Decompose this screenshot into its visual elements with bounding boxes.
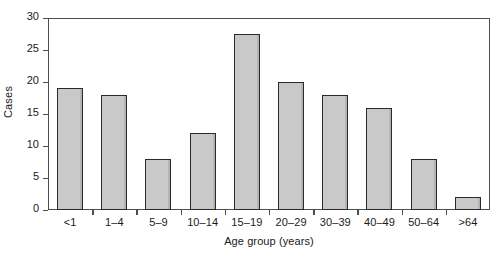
y-axis-title: Cases <box>2 72 14 132</box>
y-axis-tick-label: 20 <box>27 74 39 86</box>
x-axis-tick-label: 1–4 <box>105 216 124 228</box>
x-axis-tick-label: 50–64 <box>408 216 439 228</box>
bar <box>190 133 216 210</box>
bar-slot <box>225 18 269 210</box>
bar-slot <box>313 18 357 210</box>
bar <box>145 159 171 210</box>
bar-slot <box>136 18 180 210</box>
bar-slot <box>446 18 490 210</box>
y-axis-tick-label: 0 <box>33 202 39 214</box>
y-axis-tick-label: 25 <box>27 42 39 54</box>
y-axis-tick-label: 5 <box>33 170 39 182</box>
bar <box>278 82 304 210</box>
bar-slot <box>269 18 313 210</box>
x-axis-tick-label: <1 <box>64 216 77 228</box>
bar-series <box>48 18 490 210</box>
bar-slot <box>48 18 92 210</box>
x-axis-tick-label: 40–49 <box>364 216 395 228</box>
bar <box>411 159 437 210</box>
x-axis-tick-mark <box>181 210 182 215</box>
x-axis-tick-mark <box>92 210 93 215</box>
y-axis-tick-label: 30 <box>27 10 39 22</box>
x-axis-tick-label: >64 <box>458 216 477 228</box>
x-axis-tick-label: 20–29 <box>276 216 307 228</box>
bar <box>57 88 83 210</box>
bar <box>455 197 481 210</box>
x-axis-tick-mark <box>446 210 447 215</box>
bar <box>101 95 127 210</box>
x-axis-labels: <11–45–910–1415–1920–2930–3940–4950–64>6… <box>48 216 490 234</box>
x-axis-tick-mark <box>269 210 270 215</box>
bar-slot <box>181 18 225 210</box>
bar <box>366 108 392 210</box>
bar-chart: Cases 051015202530 <11–45–910–1415–1920–… <box>0 0 504 259</box>
x-axis-tick-label: 10–14 <box>187 216 218 228</box>
x-axis-tick-label: 30–39 <box>320 216 351 228</box>
y-axis-tick-label: 15 <box>27 106 39 118</box>
y-axis-tick-label: 10 <box>27 138 39 150</box>
x-axis-tick-mark <box>225 210 226 215</box>
bar-slot <box>402 18 446 210</box>
x-axis-tick-mark <box>402 210 403 215</box>
x-axis-tick-mark <box>136 210 137 215</box>
bar <box>234 34 260 210</box>
x-axis-title: Age group (years) <box>48 235 490 247</box>
x-axis-tick-mark <box>313 210 314 215</box>
x-axis-tick-label: 15–19 <box>231 216 262 228</box>
bar-slot <box>92 18 136 210</box>
x-axis-tick-mark <box>357 210 358 215</box>
bar <box>322 95 348 210</box>
x-axis-tick-label: 5–9 <box>149 216 168 228</box>
bar-slot <box>357 18 401 210</box>
